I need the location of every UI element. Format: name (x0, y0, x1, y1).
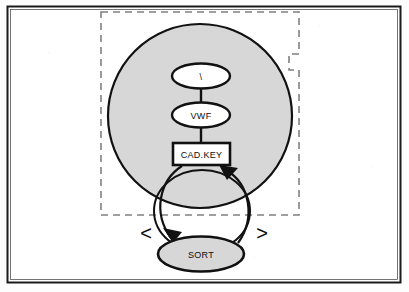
right-angle-bracket-glyph: > (256, 222, 268, 244)
node-cad-key-label: CAD.KEY (181, 150, 223, 160)
scanned-figure-page: \ VWF CAD.KEY SORT < > (0, 0, 409, 292)
node-top-ellipse-label: \ (200, 72, 203, 82)
node-vwf-label: VWF (191, 111, 212, 121)
node-sort-label: SORT (188, 250, 214, 260)
left-angle-bracket-glyph: < (140, 222, 152, 244)
diagram-canvas: \ VWF CAD.KEY SORT < > (0, 0, 409, 292)
